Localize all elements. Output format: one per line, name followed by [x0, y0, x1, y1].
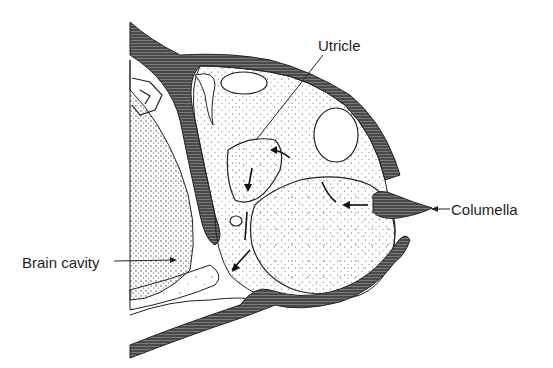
ear-section-diagram — [0, 0, 553, 368]
upper-canal-section — [221, 72, 267, 94]
brain-cavity-label: Brain cavity — [22, 255, 100, 270]
oval-window — [230, 216, 242, 226]
columella-arrowhead — [431, 206, 438, 212]
columella-label: Columella — [451, 202, 518, 217]
columella — [373, 192, 432, 219]
semicircular-canal-section — [314, 108, 358, 162]
utricle-label: Utricle — [318, 38, 361, 53]
